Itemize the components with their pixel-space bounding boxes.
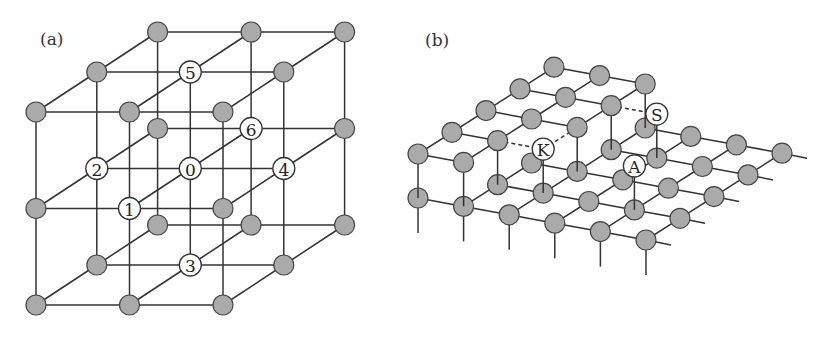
lattice-atom xyxy=(274,255,294,275)
lattice-atom xyxy=(241,215,261,235)
surface-lattice-diagram: KSA xyxy=(408,57,807,275)
labeled-site-3: 3 xyxy=(179,254,201,276)
bond xyxy=(97,225,158,265)
lattice-atom xyxy=(87,255,107,275)
surface-atom xyxy=(658,178,678,198)
bond xyxy=(284,32,345,72)
surface-atom xyxy=(545,213,565,233)
step-site-S-text: S xyxy=(651,105,663,125)
kink-site-K-text: K xyxy=(537,140,550,160)
surface-atom xyxy=(579,192,599,212)
figure-canvas: (a) (b) 6520431 KSA xyxy=(0,0,833,344)
labeled-site-4: 4 xyxy=(273,158,295,180)
lattice-atom xyxy=(148,119,168,139)
bond xyxy=(284,225,345,265)
bond xyxy=(223,72,284,112)
adatom-site-A: A xyxy=(623,155,645,177)
terrace-atom xyxy=(635,74,655,94)
surface-atom xyxy=(636,230,656,250)
lattice-atom xyxy=(120,102,140,122)
lattice-atom xyxy=(241,22,261,42)
terrace-atom xyxy=(476,101,496,121)
bond xyxy=(36,72,97,112)
labeled-site-5-text: 5 xyxy=(185,63,196,83)
lattice-atom xyxy=(26,295,46,315)
surface-atom xyxy=(590,222,610,242)
panel-b-label: (b) xyxy=(425,30,449,50)
terrace-atom xyxy=(544,57,564,77)
labeled-site-4-text: 4 xyxy=(278,160,289,180)
bond xyxy=(97,32,158,72)
lattice-atoms: 6520431 xyxy=(26,22,355,315)
lattice-atom xyxy=(213,102,233,122)
surface-atom xyxy=(772,143,792,163)
terrace-atom xyxy=(442,122,462,142)
surface-atom xyxy=(499,205,519,225)
cubic-lattice-diagram: 6520431 xyxy=(26,22,355,315)
surface-atom xyxy=(704,187,724,207)
terrace-atom xyxy=(601,96,621,116)
labeled-site-6: 6 xyxy=(240,118,262,140)
adatom-site-A-text: A xyxy=(627,157,641,177)
surface-atom xyxy=(738,165,758,185)
labeled-site-2: 2 xyxy=(86,158,108,180)
lattice-atom xyxy=(335,119,355,139)
lattice-atom xyxy=(335,22,355,42)
terrace-atom xyxy=(408,144,428,164)
labeled-site-3-text: 3 xyxy=(185,256,196,276)
terrace-atom xyxy=(488,131,508,151)
labeled-sites: KSA xyxy=(532,103,668,177)
lattice-atom xyxy=(274,62,294,82)
terrace-atom xyxy=(454,152,474,172)
labeled-site-6-text: 6 xyxy=(246,120,257,140)
panel-a-label: (a) xyxy=(40,29,63,49)
lattice-atom xyxy=(26,199,46,219)
surface-atom xyxy=(681,126,701,146)
step-site-S: S xyxy=(646,103,668,125)
lattice-atom xyxy=(148,22,168,42)
labeled-site-0-text: 0 xyxy=(185,160,196,180)
lattice-atom xyxy=(213,295,233,315)
surface-atom xyxy=(726,135,746,155)
surface-atom xyxy=(670,208,690,228)
substrate-legs xyxy=(418,198,646,275)
lattice-atom xyxy=(26,102,46,122)
labeled-site-0: 0 xyxy=(179,158,201,180)
labeled-site-1: 1 xyxy=(119,198,141,220)
terrace-atom xyxy=(567,117,587,137)
terrace-atom xyxy=(522,109,542,129)
kink-site-K: K xyxy=(532,138,554,160)
labeled-site-2-text: 2 xyxy=(91,160,102,180)
terrace-atom xyxy=(590,66,610,86)
bond xyxy=(36,265,97,305)
surface-atom xyxy=(692,157,712,177)
bond xyxy=(223,265,284,305)
labeled-site-5: 5 xyxy=(179,61,201,83)
lattice-atom xyxy=(120,295,140,315)
lattice-atom xyxy=(335,215,355,235)
terrace-atom xyxy=(556,87,576,107)
lattice-atom xyxy=(148,215,168,235)
lattice-atom xyxy=(87,62,107,82)
lattice-atom xyxy=(213,199,233,219)
labeled-site-1-text: 1 xyxy=(124,200,135,220)
terrace-atom xyxy=(510,79,530,99)
